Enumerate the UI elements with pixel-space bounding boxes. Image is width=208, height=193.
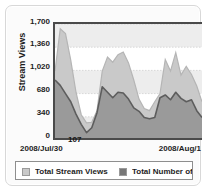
- chart-container: Stream Views 1,700 1,360 1,020 680 340 0…: [6, 9, 202, 157]
- y-tick-label: 1,360: [20, 40, 50, 48]
- legend-item-label: Total Number of: [132, 167, 193, 177]
- y-tick-label: 1,700: [20, 18, 50, 26]
- y-tick-label: 1,020: [20, 63, 50, 71]
- chart-legend: Total Stream Views Total Number of: [15, 161, 193, 180]
- legend-item-label: Total Stream Views: [35, 167, 108, 177]
- y-tick-label: 340: [20, 109, 50, 117]
- legend-item-total-stream-views[interactable]: Total Stream Views: [22, 166, 118, 178]
- chart-plot-svg: [55, 24, 202, 140]
- x-tick-label-end: 2008/Aug/1: [159, 144, 201, 153]
- legend-swatch-icon: [22, 168, 30, 176]
- y-axis-tick-labels: 1,700 1,360 1,020 680 340 0: [20, 22, 50, 136]
- legend-item-total-number-of[interactable]: Total Number of: [119, 166, 193, 178]
- chart-card: Stream Views 1,700 1,360 1,020 680 340 0…: [5, 5, 201, 186]
- plot-area: [53, 22, 202, 140]
- y-tick-label: 0: [20, 132, 50, 140]
- annotation-minimum-value: 107: [68, 135, 81, 144]
- x-tick-label-start: 2008/Jul/30: [20, 144, 63, 153]
- y-tick-label: 680: [20, 86, 50, 94]
- legend-swatch-icon: [119, 168, 127, 176]
- x-axis-tick-labels: 2008/Jul/30 2008/Aug/1: [20, 144, 202, 158]
